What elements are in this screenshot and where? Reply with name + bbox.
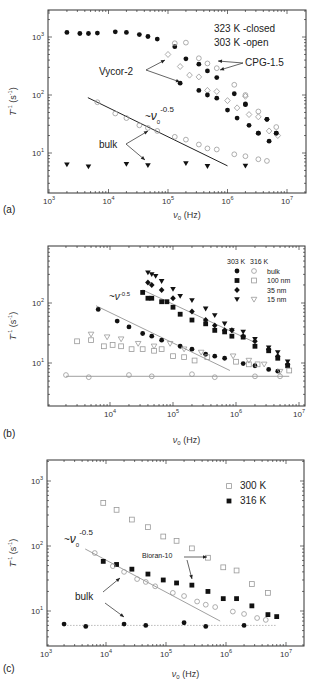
data-point xyxy=(146,34,151,39)
legend-header: 303 K xyxy=(227,258,246,265)
series-bulk-300-k xyxy=(92,551,268,623)
data-point xyxy=(161,534,166,539)
data-point xyxy=(266,590,271,595)
legend-marker xyxy=(227,499,232,504)
data-point xyxy=(124,162,130,167)
legend-label: 35 nm xyxy=(267,287,287,294)
series-bulk-303-k xyxy=(96,307,280,374)
data-point xyxy=(196,88,201,93)
data-point xyxy=(174,538,179,543)
data-point xyxy=(249,582,254,587)
legend-label: 100 nm xyxy=(267,277,291,284)
data-point xyxy=(155,37,160,42)
data-point xyxy=(265,117,270,122)
data-point xyxy=(249,603,254,608)
data-point xyxy=(196,74,202,80)
data-point xyxy=(232,82,237,87)
data-point xyxy=(86,375,91,380)
data-point xyxy=(164,299,169,304)
x-tick-label: 105 xyxy=(160,648,172,659)
data-point xyxy=(137,32,142,37)
data-point xyxy=(247,123,252,128)
data-point xyxy=(256,114,262,120)
data-point xyxy=(196,62,201,67)
data-point xyxy=(267,139,272,144)
data-point xyxy=(230,354,236,359)
data-point xyxy=(124,30,129,35)
data-point xyxy=(182,594,187,599)
arrow-head xyxy=(203,555,207,559)
data-point xyxy=(167,341,173,346)
arrow-head xyxy=(220,67,224,70)
legend-label: bulk xyxy=(267,268,280,275)
y-tick-label: 101 xyxy=(32,147,44,158)
data-point xyxy=(196,142,201,147)
data-point xyxy=(198,350,204,355)
legend-marker xyxy=(234,297,240,302)
data-point xyxy=(86,31,91,36)
data-point xyxy=(192,358,197,363)
data-point xyxy=(129,567,134,572)
data-point xyxy=(137,123,142,128)
x-tick-label: 107 xyxy=(293,408,305,419)
data-point xyxy=(214,66,219,71)
data-point xyxy=(184,137,189,142)
legend-label: 316 K xyxy=(240,495,266,506)
data-point xyxy=(159,338,164,343)
data-point xyxy=(88,332,94,337)
x-tick-label: 106 xyxy=(230,408,242,419)
data-point xyxy=(101,559,106,564)
data-point xyxy=(256,109,261,114)
data-point xyxy=(232,152,237,157)
data-point xyxy=(256,157,261,162)
data-point xyxy=(183,161,189,166)
data-point xyxy=(234,596,239,601)
data-point xyxy=(119,344,124,349)
data-point xyxy=(129,347,134,352)
x-axis-label: ν0 (Hz) xyxy=(173,435,200,446)
legend-marker xyxy=(235,278,240,283)
data-point xyxy=(149,334,154,339)
data-point xyxy=(287,368,292,373)
legend-marker xyxy=(227,484,232,489)
annotation-fit: ~ν0-0.5 xyxy=(64,528,94,548)
arrow-head xyxy=(189,575,192,579)
data-point xyxy=(118,337,124,342)
arrow-head xyxy=(218,60,222,64)
data-point xyxy=(275,350,281,355)
data-point xyxy=(140,331,145,336)
data-point xyxy=(214,88,220,94)
data-point xyxy=(77,31,82,36)
data-point xyxy=(205,61,210,66)
data-point xyxy=(203,352,208,357)
data-point xyxy=(95,31,100,36)
annotation-bulk: bulk xyxy=(75,591,94,602)
data-point xyxy=(64,162,70,167)
data-point xyxy=(242,623,247,628)
data-point xyxy=(174,581,179,586)
data-point xyxy=(170,295,176,301)
data-point xyxy=(212,313,218,318)
data-point xyxy=(243,102,248,107)
data-point xyxy=(221,565,226,570)
data-point xyxy=(153,274,159,279)
legend-label: 15 nm xyxy=(267,296,287,303)
data-point xyxy=(189,583,194,588)
x-tick-label: 106 xyxy=(222,195,234,206)
data-point xyxy=(225,108,230,113)
annotation-bulk: bulk xyxy=(99,139,118,150)
data-point xyxy=(266,367,271,372)
y-axis-label: T-1 (s-1) xyxy=(7,539,18,567)
data-point xyxy=(212,375,217,380)
x-tick-label: 106 xyxy=(220,648,232,659)
figure: 103104105106107101102103ν0 (Hz)T-1 (s-1)… xyxy=(0,0,311,688)
data-point xyxy=(189,298,195,303)
data-point xyxy=(203,602,208,607)
data-point xyxy=(222,356,227,361)
data-point xyxy=(140,290,145,295)
data-point xyxy=(266,128,272,134)
x-tick-label: 107 xyxy=(280,648,292,659)
x-tick-label: 104 xyxy=(103,195,115,206)
legend-text: 303 K -open xyxy=(214,37,269,48)
legend-marker xyxy=(252,278,257,283)
